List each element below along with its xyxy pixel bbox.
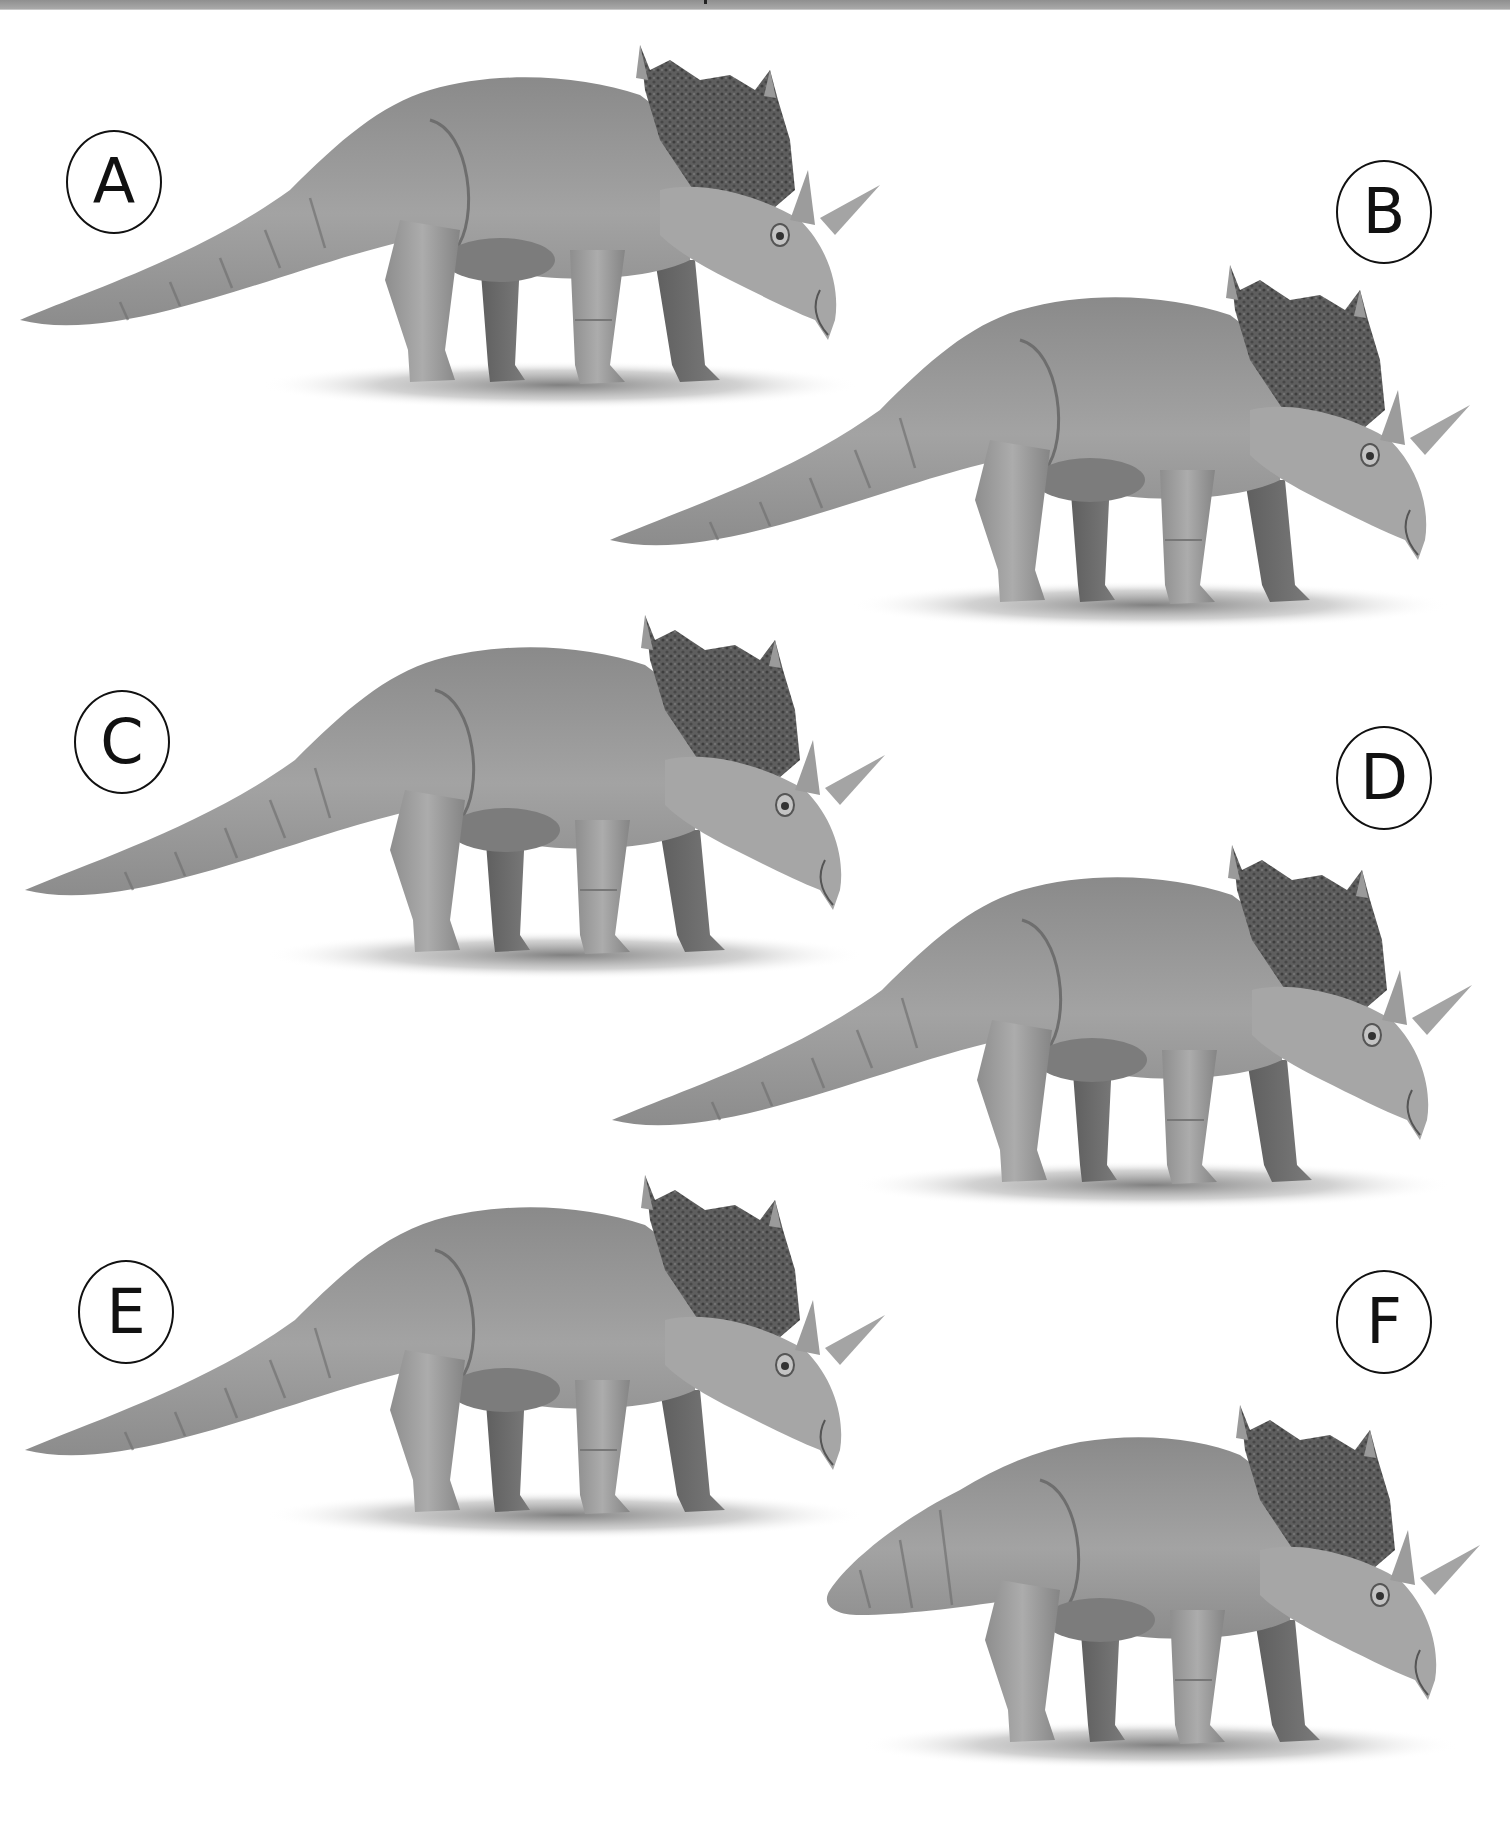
label-letter: A [93,151,135,213]
label-letter: E [106,1281,145,1343]
dinosaur-illustration-f [600,1380,1500,1820]
label-letter: D [1360,747,1408,809]
label-letter: C [100,711,143,773]
label-circle-e: E [78,1260,174,1364]
top-band-mark [704,0,707,4]
label-letter: B [1363,181,1406,243]
label-circle-d: D [1336,726,1432,830]
label-circle-c: C [74,690,170,794]
label-circle-a: A [66,130,162,234]
label-circle-b: B [1336,160,1432,264]
top-gray-band [0,0,1510,10]
label-letter: F [1366,1291,1402,1353]
label-circle-f: F [1336,1270,1432,1374]
